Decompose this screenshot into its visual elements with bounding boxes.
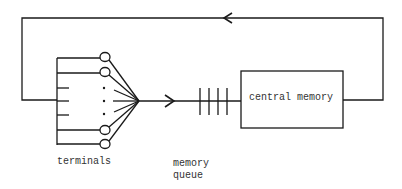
ellipsis-dot (103, 87, 105, 89)
ellipsis-dot (103, 113, 105, 115)
terminal-node (100, 140, 110, 149)
central-memory-label: central memory (249, 92, 333, 103)
terminal-node (100, 68, 110, 77)
fan-line (109, 75, 139, 101)
memory-queue-label-line1: memory (173, 158, 209, 169)
ellipsis-dot (103, 100, 105, 102)
fan-line (109, 101, 139, 127)
feedback-loop-line (22, 18, 383, 100)
terminal-node (100, 126, 110, 135)
memory-queue-label-line2: queue (173, 170, 203, 181)
terminals-label: terminals (57, 156, 111, 167)
terminal-node (100, 53, 110, 62)
